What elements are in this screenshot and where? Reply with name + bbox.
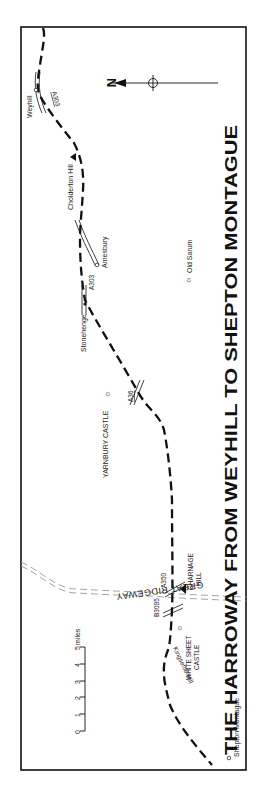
scale-tick-1: 1 <box>74 713 81 717</box>
place-cholderton-hill: Cholderton Hill <box>67 164 74 210</box>
a303-label-top: A303 <box>51 90 62 107</box>
scale-tick-0: 0 <box>74 730 81 734</box>
scale-bar-labels: 0 1 2 3 4 5 miles <box>74 628 81 734</box>
b3095-label: B3095 <box>153 598 160 617</box>
scale-unit: miles <box>74 628 81 645</box>
place-charnage-hill-line1: CHARNAGE <box>187 552 194 590</box>
old-sarum-antiquity-icon: ☼ <box>185 275 192 284</box>
a303-road-mid <box>75 220 99 315</box>
scale-tick-5: 5 <box>74 646 81 650</box>
place-white-sheet-castle-line2: CASTLE <box>193 644 200 670</box>
place-weyhill: Weyhill <box>26 95 34 118</box>
stonehenge-marker <box>83 302 86 305</box>
place-amesbury: Amesbury <box>101 236 109 268</box>
place-stonehenge: Stonehenge <box>80 314 88 352</box>
cholderton-hill-summit-icon <box>70 153 76 161</box>
place-old-sarum: Old Sarum <box>186 239 193 273</box>
north-arrow-icon <box>110 75 218 91</box>
yarnbury-castle-antiquity-icon: ☼ <box>104 389 111 398</box>
map-title: THE HARROWAY FROM WEYHILL TO SHEPTON MON… <box>222 125 240 755</box>
compass-north-label: N <box>104 78 119 87</box>
white-sheet-castle-antiquity-icon: ☼ <box>176 623 183 632</box>
weyhill-marker <box>34 88 38 92</box>
a303-label-mid: A303 <box>88 274 95 290</box>
place-charnage-hill-line2: HILL <box>195 572 202 586</box>
scale-tick-4: 4 <box>74 663 81 667</box>
scale-bar <box>80 647 85 731</box>
scale-tick-2: 2 <box>74 696 81 700</box>
a303-road-top <box>35 72 46 113</box>
amesbury-marker <box>95 263 99 267</box>
a350-label: A350 <box>160 572 167 588</box>
shepton-montague-marker <box>227 756 231 760</box>
a36-label: A36 <box>127 390 134 402</box>
scale-tick-3: 3 <box>74 680 81 684</box>
place-yarnbury-castle: YARNBURY CASTLE <box>102 410 109 478</box>
harroway-map: GREAT RIDGEWAY A303 Weyhill Cholderton H… <box>0 0 263 788</box>
